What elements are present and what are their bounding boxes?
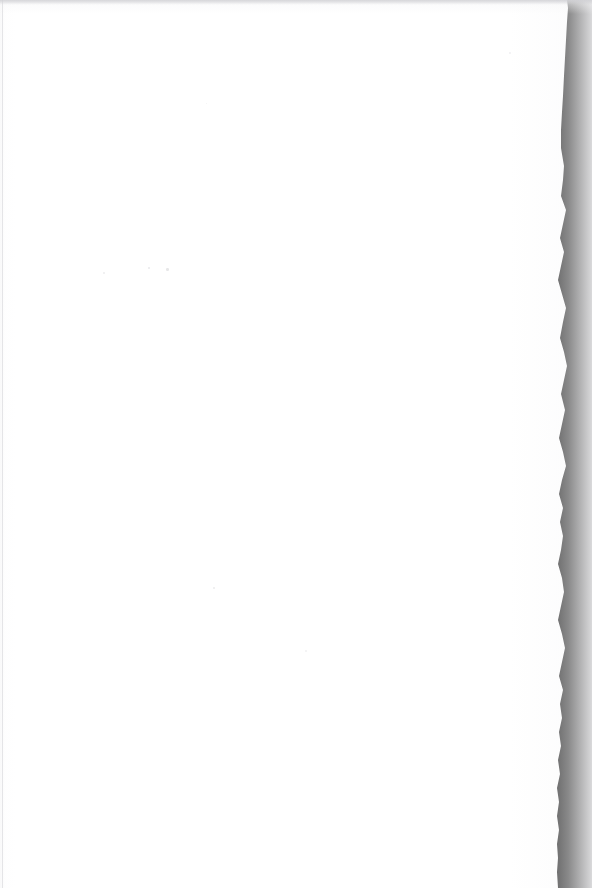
dust-speck (148, 267, 150, 269)
dust-speck (103, 272, 105, 274)
scanned-page-canvas (0, 0, 592, 888)
dust-speck (305, 650, 307, 652)
dust-speck (206, 103, 207, 104)
dust-speck (509, 52, 511, 54)
dust-speck (166, 268, 169, 271)
dust-speck (213, 587, 215, 589)
paper-overlay-layer (0, 0, 592, 888)
top-edge-shadow (0, 0, 592, 5)
paper-illumination-gradient (0, 0, 592, 888)
left-margin-line (2, 0, 3, 888)
